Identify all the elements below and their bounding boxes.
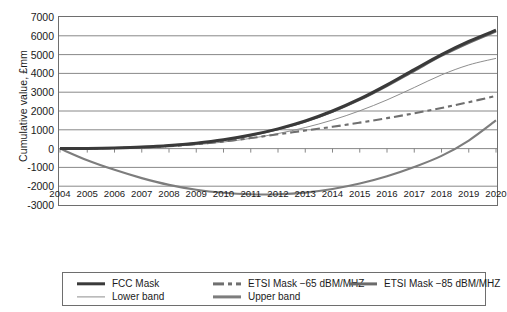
x-axis-tick-label: 2010 bbox=[213, 188, 234, 200]
legend-swatch bbox=[77, 292, 105, 302]
x-axis-tick-label: 2019 bbox=[458, 188, 479, 200]
legend-item[interactable]: ETSI Mask −65 dBM/MHZ bbox=[213, 278, 364, 289]
legend-item[interactable]: Lower band bbox=[77, 291, 164, 302]
legend-swatch bbox=[213, 292, 241, 302]
x-axis-tick-labels: 2004200520062007200820092010201120122013… bbox=[58, 188, 498, 204]
y-axis-tick-label: -3000 bbox=[10, 200, 54, 210]
y-axis-tick-label: 5000 bbox=[10, 50, 54, 60]
x-axis-tick-label: 2018 bbox=[431, 188, 452, 200]
x-axis-tick-label: 2009 bbox=[186, 188, 207, 200]
legend-item[interactable]: FCC Mask bbox=[77, 278, 159, 289]
x-axis-tick-label: 2016 bbox=[376, 188, 397, 200]
legend-label: Lower band bbox=[112, 291, 164, 302]
legend-swatch bbox=[77, 279, 105, 289]
legend-item[interactable]: ETSI Mask −85 dBM/MHZ bbox=[349, 278, 500, 289]
y-axis-tick-labels: 70006000500040003000200010000-1000-2000-… bbox=[10, 0, 54, 260]
y-axis-tick-label: 2000 bbox=[10, 106, 54, 116]
x-axis-tick-label: 2005 bbox=[77, 188, 98, 200]
legend-swatch bbox=[213, 279, 241, 289]
x-axis-tick-label: 2008 bbox=[158, 188, 179, 200]
x-axis-tick-label: 2006 bbox=[104, 188, 125, 200]
x-axis-tick-label: 2020 bbox=[485, 188, 506, 200]
series-line bbox=[60, 31, 496, 148]
plot-area bbox=[58, 16, 498, 206]
legend-label: ETSI Mask −85 dBM/MHZ bbox=[384, 278, 500, 289]
x-axis-tick-label: 2004 bbox=[49, 188, 70, 200]
y-axis-tick-label: 0 bbox=[10, 144, 54, 154]
legend-label: Upper band bbox=[248, 291, 300, 302]
plot-svg bbox=[59, 17, 497, 205]
x-axis-tick-label: 2014 bbox=[322, 188, 343, 200]
legend-swatch bbox=[349, 279, 377, 289]
x-axis-tick-label: 2017 bbox=[404, 188, 425, 200]
x-axis-tick-label: 2013 bbox=[295, 188, 316, 200]
legend-label: ETSI Mask −65 dBM/MHZ bbox=[248, 278, 364, 289]
y-axis-tick-label: 3000 bbox=[10, 87, 54, 97]
y-axis-tick-label: 4000 bbox=[10, 68, 54, 78]
x-axis-tick-label: 2011 bbox=[240, 188, 261, 200]
x-axis-tick-label: 2015 bbox=[349, 188, 370, 200]
x-axis-tick-label: 2012 bbox=[267, 188, 288, 200]
series-line bbox=[60, 96, 496, 149]
y-axis-tick-label: 6000 bbox=[10, 31, 54, 41]
x-axis-tick-label: 2007 bbox=[131, 188, 152, 200]
series-line bbox=[60, 120, 496, 194]
y-axis-tick-label: -2000 bbox=[10, 181, 54, 191]
y-axis-tick-label: -1000 bbox=[10, 162, 54, 172]
chart-legend: FCC MaskETSI Mask −65 dBM/MHZETSI Mask −… bbox=[62, 272, 486, 306]
y-axis-tick-label: 1000 bbox=[10, 125, 54, 135]
y-axis-tick-label: 7000 bbox=[10, 12, 54, 22]
series-line bbox=[60, 30, 496, 148]
legend-label: FCC Mask bbox=[112, 278, 159, 289]
legend-item[interactable]: Upper band bbox=[213, 291, 300, 302]
